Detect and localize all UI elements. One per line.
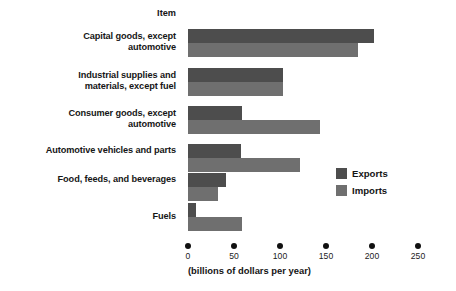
category-label-line: Automotive vehicles and parts [0,145,176,156]
x-axis-tick-label: 200 [358,251,386,261]
category-label-line: Fuels [0,211,176,222]
bar-imports-5 [188,217,242,231]
chart-legend: Exports Imports [336,166,446,200]
category-label-4: Food, feeds, and beverages [0,174,176,185]
bar-imports-4 [188,187,218,201]
bar-imports-0 [188,43,358,57]
bar-imports-2 [188,120,320,134]
legend-item-exports: Exports [336,166,446,181]
bar-exports-4 [188,173,226,187]
category-label-column: Item Capital goods, exceptautomotiveIndu… [0,0,182,240]
tick-dot-icon [231,243,237,249]
tick-dot-icon [323,243,329,249]
legend-item-imports: Imports [336,183,446,198]
tick-dot-icon [415,243,421,249]
tick-dot-icon [277,243,283,249]
category-label-1: Industrial supplies andmaterials, except… [0,70,176,93]
x-axis-tick-label: 50 [220,251,248,261]
bar-exports-5 [188,203,196,217]
category-label-0: Capital goods, exceptautomotive [0,31,176,54]
column-header-item: Item [0,8,176,18]
bar-imports-1 [188,82,283,96]
category-label-line: Industrial supplies and [0,70,176,81]
x-axis-tick-label: 100 [266,251,294,261]
legend-label-imports: Imports [352,185,387,196]
category-label-2: Consumer goods, exceptautomotive [0,108,176,131]
x-axis: (billions of dollars per year) 050100150… [188,243,456,291]
category-label-line: Food, feeds, and beverages [0,174,176,185]
tick-dot-icon [185,243,191,249]
chart-figure: Item Capital goods, exceptautomotiveIndu… [0,0,456,291]
bar-exports-3 [188,144,241,158]
x-axis-tick-label: 250 [404,251,432,261]
legend-swatch-exports [336,168,347,179]
plot-area [188,0,456,240]
category-label-line: automotive [0,42,176,53]
category-label-line: Capital goods, except [0,31,176,42]
category-label-3: Automotive vehicles and parts [0,145,176,156]
x-axis-tick-label: 150 [312,251,340,261]
category-label-line: materials, except fuel [0,81,176,92]
category-label-5: Fuels [0,211,176,222]
x-axis-tick-label: 0 [174,251,202,261]
bar-exports-0 [188,29,374,43]
bar-exports-2 [188,106,242,120]
legend-swatch-imports [336,185,347,196]
x-axis-title: (billions of dollars per year) [188,265,311,276]
category-label-line: Consumer goods, except [0,108,176,119]
bar-exports-1 [188,68,283,82]
category-label-line: automotive [0,119,176,130]
bar-imports-3 [188,158,300,172]
legend-label-exports: Exports [352,168,388,179]
tick-dot-icon [369,243,375,249]
